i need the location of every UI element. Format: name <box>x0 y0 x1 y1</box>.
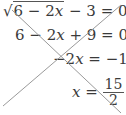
strike-through-cross-icon <box>0 0 126 115</box>
strike-line-up <box>3 5 121 106</box>
strike-line-down <box>12 10 121 113</box>
